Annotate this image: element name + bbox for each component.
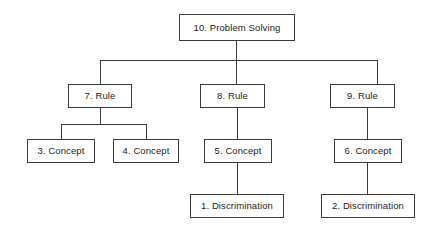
node-rule-8[interactable]: 8. Rule [200, 84, 265, 108]
connector-drop-to-rule-8 [236, 60, 237, 84]
connector-rule-8-to-concept-5 [237, 108, 238, 139]
connector-drop-to-rule-9 [377, 60, 378, 84]
connector-rule-7-trunk [100, 108, 101, 124]
connector-drop-to-concept-3 [61, 124, 62, 139]
connector-root-trunk [236, 41, 237, 60]
connector-rule-9-to-concept-6 [367, 108, 368, 139]
node-problem-solving-10[interactable]: 10. Problem Solving [179, 14, 295, 41]
connector-drop-to-rule-7 [100, 60, 101, 84]
connector-rule-7-distributor [61, 124, 146, 125]
connector-drop-to-concept-4 [146, 124, 147, 139]
node-concept-4[interactable]: 4. Concept [113, 139, 179, 163]
connector-root-distributor [100, 60, 378, 61]
connector-concept-6-to-discrimination-2 [367, 163, 368, 194]
node-rule-9[interactable]: 9. Rule [330, 84, 395, 108]
node-concept-5[interactable]: 5. Concept [204, 139, 272, 163]
node-rule-7[interactable]: 7. Rule [68, 84, 132, 108]
connector-concept-5-to-discrimination-1 [237, 163, 238, 194]
node-concept-6[interactable]: 6. Concept [334, 139, 402, 163]
node-discrimination-1[interactable]: 1. Discrimination [190, 194, 284, 218]
node-concept-3[interactable]: 3. Concept [27, 139, 95, 163]
node-discrimination-2[interactable]: 2. Discrimination [321, 194, 415, 218]
hierarchy-diagram: 10. Problem Solving 7. Rule 8. Rule 9. R… [0, 0, 443, 244]
